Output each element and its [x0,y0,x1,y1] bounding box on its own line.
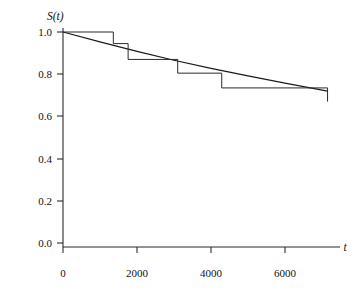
y-tick-label-1: 1.0 [38,26,52,38]
y-tick-label-2: 0.8 [38,68,52,80]
y-axis-ticks [57,32,63,243]
fitted-survival-curve [63,32,328,91]
y-tick-label-5: 0.2 [38,195,52,207]
x-axis-title: t [343,241,347,253]
y-axis-title: S(t) [47,10,64,23]
x-axis-ticks [63,247,285,253]
x-tick-label-4: 6000 [274,267,297,279]
x-tick-label-2: 2000 [126,267,149,279]
y-tick-label-4: 0.4 [38,153,52,165]
x-tick-label-1: 0 [60,267,66,279]
chart-canvas: 1.0 0.8 0.6 0.4 0.2 0.0 0 2000 4000 6000… [0,0,358,296]
x-tick-label-3: 4000 [200,267,223,279]
y-tick-label-6: 0.0 [38,237,52,249]
y-tick-label-3: 0.6 [38,110,52,122]
survival-plot: 1.0 0.8 0.6 0.4 0.2 0.0 0 2000 4000 6000… [0,0,358,296]
